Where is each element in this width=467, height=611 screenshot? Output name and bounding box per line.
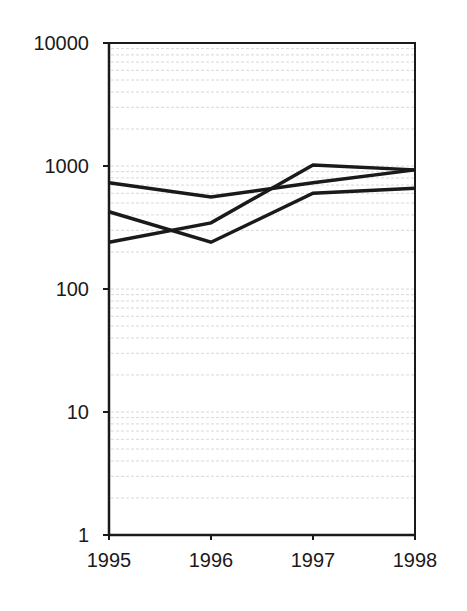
x-axis-ticks: 1995199619971998 bbox=[87, 535, 438, 571]
y-tick-label: 10 bbox=[67, 401, 89, 423]
y-tick-label: 100 bbox=[56, 278, 89, 300]
x-tick-label: 1995 bbox=[87, 549, 132, 571]
y-axis-ticks: 110100100010000 bbox=[33, 32, 109, 546]
y-tick-label: 1 bbox=[78, 524, 89, 546]
x-tick-label: 1998 bbox=[393, 549, 438, 571]
gridlines bbox=[111, 49, 414, 498]
y-tick-label: 10000 bbox=[33, 32, 89, 54]
x-tick-label: 1997 bbox=[291, 549, 336, 571]
x-tick-label: 1996 bbox=[189, 549, 234, 571]
y-tick-label: 1000 bbox=[45, 155, 90, 177]
line-chart: 110100100010000 1995199619971998 bbox=[0, 0, 467, 611]
